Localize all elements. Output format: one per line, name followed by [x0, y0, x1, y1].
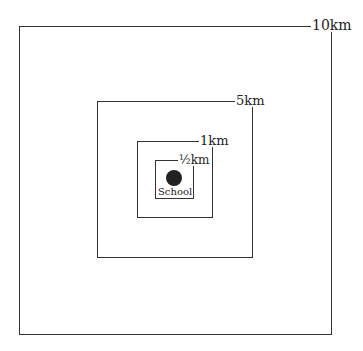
school-label: School [158, 186, 192, 197]
zone-5km-label: 5km [235, 94, 264, 107]
zone-half-km-label: ½km [178, 154, 209, 166]
zone-1km-label: 1km [199, 134, 228, 147]
zone-10km-label: 10km [311, 18, 352, 32]
school-marker-icon [166, 170, 182, 186]
